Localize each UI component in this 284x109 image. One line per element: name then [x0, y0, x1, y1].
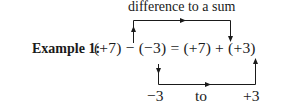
arrow-up-icon: [131, 26, 136, 32]
arrow-down-icon: [156, 68, 161, 74]
top-bracket-line: [134, 21, 231, 44]
bottom-bracket-line: [159, 60, 256, 85]
arrow-down-icon: [228, 36, 233, 42]
arrow-diagram: [0, 0, 284, 109]
arrow-up-icon: [253, 58, 258, 64]
arrow-right-icon: [180, 18, 186, 23]
arrow-right-icon: [205, 82, 211, 87]
